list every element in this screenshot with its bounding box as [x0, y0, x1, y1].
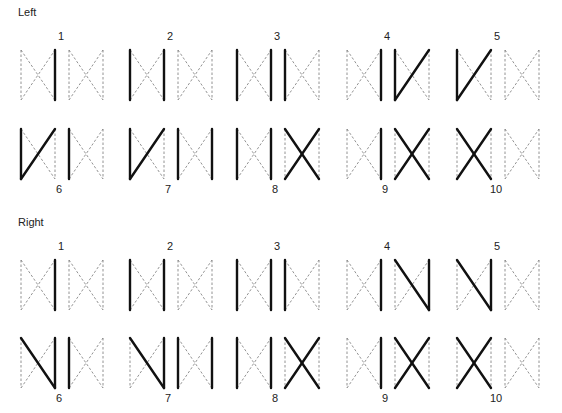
bowtie-pair	[456, 127, 542, 181]
bowtie-pair	[346, 258, 432, 312]
section-title-right: Right	[18, 216, 44, 228]
figure-right-5: 5	[456, 258, 540, 312]
box-b	[285, 338, 319, 388]
figure-left-4: 4	[346, 48, 430, 102]
figure-left-2: 2	[129, 48, 213, 102]
figure-number: 3	[274, 30, 280, 42]
bowtie-pair	[20, 258, 106, 312]
box-a	[21, 50, 55, 100]
box-b	[505, 50, 539, 100]
figure-right-2: 2	[129, 258, 213, 312]
figure-number: 4	[384, 240, 390, 252]
figure-right-9: 9	[346, 336, 430, 390]
bowtie-pair	[346, 336, 432, 390]
box-b	[395, 260, 429, 310]
box-b	[69, 260, 103, 310]
box-b	[285, 260, 319, 310]
figure-number: 8	[272, 392, 278, 404]
box-a	[457, 50, 491, 100]
figure-right-10: 10	[456, 336, 540, 390]
figure-right-4: 4	[346, 258, 430, 312]
box-b	[178, 50, 212, 100]
box-b	[178, 338, 212, 388]
box-b	[69, 50, 103, 100]
box-b	[178, 260, 212, 310]
box-a	[237, 338, 271, 388]
bowtie-pair	[20, 48, 106, 102]
box-b	[285, 129, 319, 179]
bowtie-pair	[129, 127, 215, 181]
figure-left-6: 6	[20, 127, 104, 181]
box-a	[237, 50, 271, 100]
bowtie-pair	[236, 127, 322, 181]
box-b	[395, 338, 429, 388]
box-b	[505, 338, 539, 388]
box-b	[285, 50, 319, 100]
figure-left-8: 8	[236, 127, 320, 181]
bowtie-pair	[129, 258, 215, 312]
box-a	[130, 129, 164, 179]
box-a	[130, 50, 164, 100]
bowtie-pair	[346, 127, 432, 181]
box-b	[395, 129, 429, 179]
figure-left-7: 7	[129, 127, 213, 181]
figure-number: 9	[382, 392, 388, 404]
bowtie-pair	[456, 48, 542, 102]
figure-right-7: 7	[129, 336, 213, 390]
figure-left-1: 1	[20, 48, 104, 102]
figure-number: 2	[167, 240, 173, 252]
box-a	[457, 260, 491, 310]
box-b	[178, 129, 212, 179]
box-b	[505, 260, 539, 310]
section-title-left: Left	[18, 6, 36, 18]
bowtie-pair	[346, 48, 432, 102]
box-a	[21, 129, 55, 179]
bowtie-pair	[456, 336, 542, 390]
figure-right-8: 8	[236, 336, 320, 390]
box-a	[21, 260, 55, 310]
box-a	[347, 260, 381, 310]
box-a	[237, 129, 271, 179]
bowtie-pair	[20, 336, 106, 390]
figure-right-1: 1	[20, 258, 104, 312]
box-a	[347, 338, 381, 388]
bowtie-pair	[20, 127, 106, 181]
bowtie-pair	[236, 336, 322, 390]
figure-number: 5	[494, 30, 500, 42]
figure-left-9: 9	[346, 127, 430, 181]
box-a	[21, 338, 55, 388]
box-a	[457, 129, 491, 179]
figure-number: 7	[165, 183, 171, 195]
box-a	[347, 129, 381, 179]
figure-number: 4	[384, 30, 390, 42]
bowtie-pair	[456, 258, 542, 312]
box-a	[130, 338, 164, 388]
figure-right-3: 3	[236, 258, 320, 312]
box-a	[457, 338, 491, 388]
figure-number: 5	[494, 240, 500, 252]
figure-number: 10	[490, 183, 502, 195]
figure-number: 2	[167, 30, 173, 42]
figure-number: 6	[56, 392, 62, 404]
box-b	[69, 129, 103, 179]
box-b	[505, 129, 539, 179]
figure-number: 6	[56, 183, 62, 195]
figure-number: 8	[272, 183, 278, 195]
figure-number: 1	[58, 240, 64, 252]
figure-number: 1	[58, 30, 64, 42]
bowtie-pair	[236, 48, 322, 102]
box-b	[69, 338, 103, 388]
figure-number: 7	[165, 392, 171, 404]
box-b	[395, 50, 429, 100]
box-a	[347, 50, 381, 100]
figure-number: 10	[490, 392, 502, 404]
bowtie-pair	[236, 258, 322, 312]
bowtie-pair	[129, 48, 215, 102]
figure-left-10: 10	[456, 127, 540, 181]
bowtie-pair	[129, 336, 215, 390]
box-a	[237, 260, 271, 310]
figure-number: 3	[274, 240, 280, 252]
box-a	[130, 260, 164, 310]
figure-left-3: 3	[236, 48, 320, 102]
figure-right-6: 6	[20, 336, 104, 390]
